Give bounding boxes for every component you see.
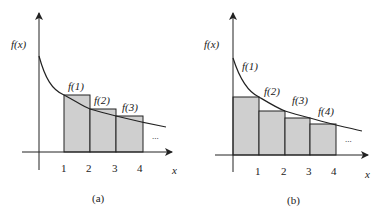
tick-4-a: 4 (137, 162, 143, 174)
tick-3-b: 3 (306, 165, 312, 177)
tick-3-a: 3 (112, 162, 118, 174)
bar-label-f3-a: f(3) (122, 101, 138, 114)
bar-f1 (233, 97, 259, 155)
tick-2-a: 2 (86, 162, 92, 174)
bar-f2 (259, 111, 285, 155)
y-label-b: f(x) (204, 38, 220, 51)
bar-label-f1-b: f(1) (242, 60, 258, 73)
bar-f4 (310, 124, 336, 155)
bar-label-f1-a: f(1) (68, 80, 84, 93)
diagram-canvas: f(x) f(1) f(2) f(3) ... 1 2 3 4 x (a) f(… (0, 0, 380, 214)
panel-a: f(x) f(1) f(2) f(3) ... 1 2 3 4 x (a) (11, 13, 177, 205)
bar-f3 (285, 118, 310, 155)
tick-4-b: 4 (331, 165, 337, 177)
bar-label-f4-b: f(4) (318, 105, 334, 118)
bar-f1 (64, 95, 90, 152)
bar-label-f2-a: f(2) (94, 94, 110, 107)
y-label-a: f(x) (11, 38, 27, 51)
caption-b: (b) (287, 194, 300, 207)
ellipsis-a: ... (152, 131, 159, 141)
bar-label-f3-b: f(3) (292, 94, 308, 107)
tick-1-b: 1 (255, 165, 261, 177)
caption-a: (a) (92, 192, 105, 205)
tick-2-b: 2 (281, 165, 287, 177)
x-label-a: x (171, 164, 177, 176)
panel-b: f(x) f(1) f(2) f(3) f(4) ... 1 2 3 4 x (… (204, 13, 370, 207)
ellipsis-b: ... (345, 134, 352, 144)
x-label-b: x (364, 168, 370, 180)
tick-1-a: 1 (61, 162, 67, 174)
bar-label-f2-b: f(2) (264, 85, 280, 98)
